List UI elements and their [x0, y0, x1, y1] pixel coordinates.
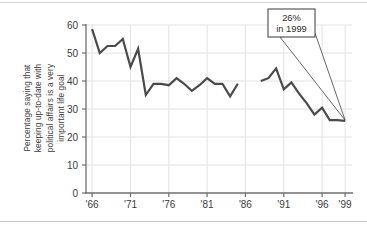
y-tick-label: 0 — [72, 188, 78, 199]
data-line-series-1 — [92, 29, 238, 96]
y-tick-label: 60 — [67, 20, 79, 31]
y-tick-label: 10 — [67, 160, 79, 171]
line-chart: 0102030405060 '66'71'76'81'86'91'96'99 2… — [0, 0, 367, 229]
x-axis-ticks: '66'71'76'81'86'91'96'99 — [86, 193, 352, 210]
y-tick-label: 20 — [67, 132, 79, 143]
x-tick-label: '91 — [277, 199, 290, 210]
x-tick-label: '96 — [316, 199, 329, 210]
y-axis-ticks: 0102030405060 — [67, 20, 86, 199]
figure-canvas: Percentage saying that keeping up-to-dat… — [0, 0, 367, 229]
y-tick-label: 40 — [67, 76, 79, 87]
callout-value-text: 26% — [282, 13, 301, 23]
y-tick-label: 30 — [67, 104, 79, 115]
x-tick-label: '99 — [339, 199, 352, 210]
x-tick-label: '66 — [86, 199, 99, 210]
x-tick-label: '81 — [201, 199, 214, 210]
callout-year-text: in 1999 — [276, 24, 307, 34]
y-tick-label: 50 — [67, 48, 79, 59]
x-tick-label: '76 — [162, 199, 175, 210]
x-tick-label: '86 — [239, 199, 252, 210]
x-tick-label: '71 — [124, 199, 137, 210]
callout-pointer — [280, 33, 345, 120]
